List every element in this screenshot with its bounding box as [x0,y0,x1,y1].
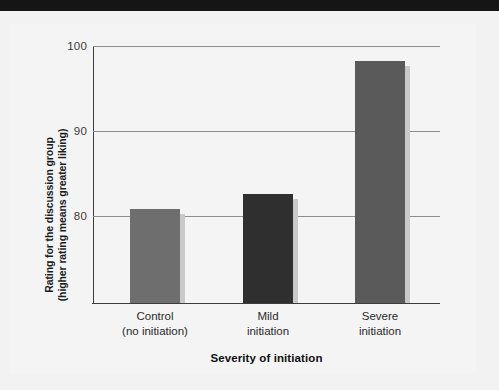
x-axis-label: Severity of initiation [93,352,440,364]
bar-control[interactable] [130,209,180,303]
y-tick-label-80: 80 [74,210,87,222]
y-axis-label-line-1: Rating for the discussion group [43,90,56,340]
page-top-banner [0,0,499,11]
y-axis-label-line-2: (higher rating means greater liking) [56,90,69,340]
y-tick-label-100: 100 [67,40,87,52]
bar-mild[interactable] [243,194,293,303]
bar-group-control[interactable] [130,209,190,303]
bar-severe[interactable] [355,61,405,303]
x-tick-label-severe-line-2: initiation [310,324,450,339]
gridline-100 [93,46,440,47]
figure-page: Rating for the discussion group (higher … [0,0,499,390]
y-tick-label-90: 90 [74,125,87,137]
x-tick-label-severe-line-1: Severe [310,309,450,324]
plot-area: 100 90 80 [93,46,440,303]
bar-group-mild[interactable] [243,194,303,303]
x-axis-line [92,303,440,304]
x-tick-label-severe: Severe initiation [310,309,450,339]
y-axis-label: Rating for the discussion group (higher … [43,90,69,340]
bar-group-severe[interactable] [355,61,415,303]
y-axis-line [93,46,94,304]
